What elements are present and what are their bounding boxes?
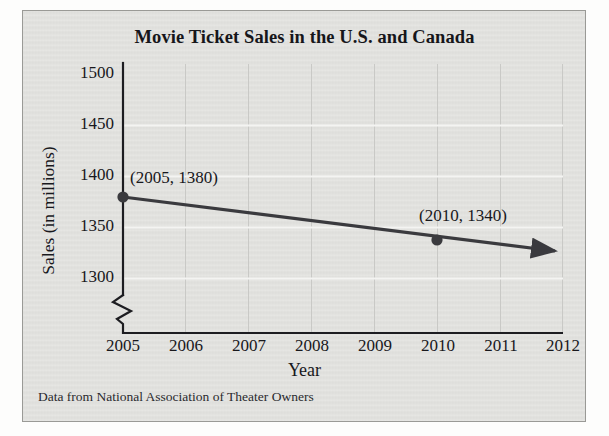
- annotation-2010: (2010, 1340): [419, 206, 507, 226]
- x-tick-2012: 2012: [533, 336, 593, 356]
- chart-page: Movie Ticket Sales in the U.S. and Canad…: [0, 0, 609, 436]
- y-tick-1400: 1400: [54, 165, 114, 185]
- source-note: Data from National Association of Theate…: [38, 389, 314, 405]
- horizontal-gridlines: [123, 126, 563, 279]
- x-tick-2010: 2010: [408, 336, 468, 356]
- y-axis-title: Sales (in millions): [38, 111, 59, 311]
- x-axis-title: Year: [0, 360, 609, 381]
- y-tick-1450: 1450: [54, 114, 114, 134]
- data-point-2010: [431, 234, 442, 245]
- x-tick-2007: 2007: [219, 336, 279, 356]
- annotation-2005: (2005, 1380): [130, 168, 218, 188]
- x-tick-2005: 2005: [93, 336, 153, 356]
- y-tick-1350: 1350: [54, 216, 114, 236]
- vertical-gridlines: [186, 64, 563, 332]
- y-tick-1300: 1300: [54, 267, 114, 287]
- x-tick-2008: 2008: [282, 336, 342, 356]
- x-tick-2009: 2009: [345, 336, 405, 356]
- x-tick-2011: 2011: [471, 336, 531, 356]
- x-tick-2006: 2006: [156, 336, 216, 356]
- y-tick-1500: 1500: [54, 63, 114, 83]
- data-point-2005: [117, 191, 128, 202]
- page-title: Movie Ticket Sales in the U.S. and Canad…: [0, 27, 609, 48]
